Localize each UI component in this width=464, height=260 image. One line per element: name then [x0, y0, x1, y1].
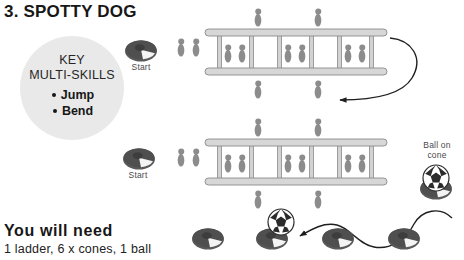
- slalom-cone-icon: [192, 228, 224, 249]
- ball-on-cone-label: Ball on cone: [414, 140, 460, 160]
- footprint-pair: [285, 44, 306, 62]
- key-skill-list: Jump Bend: [20, 87, 124, 119]
- footprint-single: [255, 190, 262, 208]
- footprint-pair: [225, 154, 246, 172]
- slalom-cone-icon: [388, 228, 420, 249]
- footprint-single: [255, 8, 262, 26]
- footprint-single: [315, 8, 322, 26]
- start-cone-icon: [123, 148, 155, 169]
- start-label-bottom: Start: [119, 170, 157, 180]
- ladder-row-top: [125, 8, 417, 100]
- footprint-single: [255, 118, 262, 136]
- key-skill-label: Bend: [62, 104, 93, 118]
- slalom-row: [192, 209, 452, 250]
- ladder-rungs: [218, 34, 374, 70]
- page-title: 3. SPOTTY DOG: [4, 2, 137, 22]
- agility-ladder: [205, 29, 387, 75]
- ladder-rungs: [218, 144, 374, 180]
- return-arrow: [340, 38, 417, 100]
- key-heading-line-2: MULTI-SKILLS: [20, 68, 124, 83]
- slalom-cone-icon: [256, 228, 288, 249]
- slalom-cone-icon: [322, 228, 354, 249]
- ladder-row-bottom: [123, 118, 452, 208]
- equipment-list: 1 ladder, 6 x cones, 1 ball: [4, 242, 151, 256]
- footprint-pair: [178, 38, 200, 56]
- key-panel-content: KEY MULTI-SKILLS Jump Bend: [20, 53, 124, 119]
- bullet-icon: [52, 93, 56, 97]
- bullet-icon: [53, 109, 57, 113]
- footprint-pair: [285, 154, 306, 172]
- equipment-heading: You will need: [4, 222, 113, 240]
- footprint-single: [315, 118, 322, 136]
- soccer-ball-icon: [268, 209, 294, 235]
- key-heading-line-1: KEY: [20, 53, 124, 68]
- footprint-pair: [225, 44, 246, 62]
- footprint-single: [255, 80, 262, 98]
- exercise-card: 3. SPOTTY DOG KEY MULTI-SKILLS Jump Bend: [0, 0, 464, 260]
- agility-ladder: [205, 139, 387, 185]
- ball-on-cone-label-line-1: Ball on: [423, 140, 450, 150]
- key-skill-label: Jump: [61, 88, 94, 102]
- ball-on-cone-icon: [420, 165, 452, 200]
- footprint-single: [315, 80, 322, 98]
- key-panel: KEY MULTI-SKILLS Jump Bend: [20, 36, 124, 140]
- start-cone-icon: [125, 40, 157, 61]
- ball-on-cone-label-line-2: cone: [427, 150, 446, 160]
- footprint-pair: [345, 44, 366, 62]
- ladder-rails: [205, 29, 387, 75]
- list-item: Jump: [20, 87, 124, 103]
- ladder-rails: [205, 139, 387, 185]
- footprint-pair: [345, 154, 366, 172]
- list-item: Bend: [20, 103, 124, 119]
- footprint-single: [315, 190, 322, 208]
- start-label-top: Start: [122, 62, 160, 72]
- dribble-path: [300, 211, 452, 248]
- footprint-pair: [178, 148, 200, 166]
